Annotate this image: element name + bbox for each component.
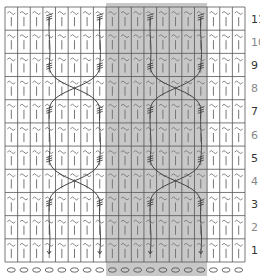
purl-tilde-icon (209, 174, 217, 177)
cast-on-oval-icon (7, 268, 15, 272)
knitting-chart: 1110987654321 (0, 0, 260, 276)
stitch-cell (20, 81, 28, 96)
purl-tilde-icon (235, 35, 243, 38)
stitch-cell (235, 127, 243, 142)
stitch-cell (20, 243, 28, 258)
purl-tilde-icon (83, 127, 91, 130)
purl-tilde-icon (96, 81, 104, 84)
purl-tilde-icon (83, 243, 91, 246)
stitch-cell (7, 35, 15, 50)
purl-tilde-icon (20, 220, 28, 223)
stitch-cell (33, 220, 41, 235)
stitch-cell (70, 220, 78, 235)
purl-tilde-icon (83, 197, 91, 200)
stitch-cell (209, 127, 217, 142)
stitch-cell (70, 35, 78, 50)
purl-tilde-icon (96, 174, 104, 177)
purl-tilde-icon (209, 151, 217, 154)
row-label-9: 9 (251, 59, 258, 72)
stitch-cell (209, 174, 217, 189)
stitch-cell (83, 151, 91, 166)
stitch-cell (33, 174, 41, 189)
purl-tilde-icon (58, 151, 66, 154)
stitch-cell (209, 12, 217, 27)
purl-tilde-icon (70, 104, 78, 107)
stitch-cell (7, 81, 15, 96)
cast-on-oval-icon (209, 268, 217, 272)
purl-tilde-icon (222, 243, 230, 246)
purl-tilde-icon (222, 174, 230, 177)
purl-tilde-icon (209, 127, 217, 130)
stitch-cell (222, 58, 230, 73)
purl-tilde-icon (222, 151, 230, 154)
stitch-cell (20, 151, 28, 166)
row-label-7: 7 (251, 105, 258, 118)
cast-on-oval-icon (70, 268, 78, 272)
stitch-cell (209, 151, 217, 166)
purl-tilde-icon (58, 104, 66, 107)
purl-tilde-icon (70, 243, 78, 246)
stitch-cell (20, 35, 28, 50)
stitch-cell (222, 220, 230, 235)
stitch-cell (33, 127, 41, 142)
purl-tilde-icon (7, 174, 15, 177)
stitch-cell (33, 81, 41, 96)
stitch-cell (33, 35, 41, 50)
cable-knot-icon (46, 63, 52, 69)
purl-tilde-icon (33, 104, 41, 107)
stitch-cell (7, 151, 15, 166)
purl-tilde-icon (70, 197, 78, 200)
purl-tilde-icon (20, 35, 28, 38)
purl-tilde-icon (70, 174, 78, 177)
cast-on-oval-icon (235, 268, 243, 272)
purl-tilde-icon (222, 104, 230, 107)
purl-tilde-icon (58, 127, 66, 130)
stitch-cell (70, 151, 78, 166)
stitch-cell (70, 58, 78, 73)
stitch-cell (235, 58, 243, 73)
stitch-cell (222, 151, 230, 166)
purl-tilde-icon (70, 151, 78, 154)
stitch-cell (83, 243, 91, 258)
stitch-cell (235, 104, 243, 119)
stitch-cell (222, 243, 230, 258)
purl-tilde-icon (20, 243, 28, 246)
stitch-cell (235, 243, 243, 258)
cast-on-oval-icon (33, 268, 41, 272)
row-label-10: 10 (251, 36, 260, 49)
purl-tilde-icon (33, 220, 41, 223)
purl-tilde-icon (33, 243, 41, 246)
cable-knot-icon (97, 63, 103, 69)
stitch-cell (83, 58, 91, 73)
purl-tilde-icon (235, 243, 243, 246)
purl-tilde-icon (20, 174, 28, 177)
cable-knot-icon (46, 107, 52, 113)
purl-tilde-icon (209, 104, 217, 107)
stitch-cell (83, 220, 91, 235)
stitch-cell (96, 174, 104, 189)
purl-tilde-icon (209, 12, 217, 15)
stitch-cell (235, 197, 243, 212)
stitch-cell (58, 151, 66, 166)
cable-knot-icon (46, 200, 52, 206)
cast-on-oval-icon (83, 268, 91, 272)
purl-tilde-icon (33, 197, 41, 200)
cast-on-oval-icon (222, 268, 230, 272)
stitch-cell (209, 81, 217, 96)
stitch-cell (20, 174, 28, 189)
purl-tilde-icon (45, 81, 53, 84)
stitch-cell (58, 12, 66, 27)
stitch-cell (209, 197, 217, 212)
stitch-cell (235, 151, 243, 166)
purl-tilde-icon (33, 127, 41, 130)
stitch-cell (20, 12, 28, 27)
purl-tilde-icon (209, 197, 217, 200)
stitch-cell (222, 127, 230, 142)
purl-tilde-icon (7, 127, 15, 130)
row-label-8: 8 (251, 82, 258, 95)
cable-knot-icon (97, 200, 103, 206)
stitch-cell (7, 104, 15, 119)
cable-knot-icon (97, 156, 103, 162)
purl-tilde-icon (70, 58, 78, 61)
purl-tilde-icon (70, 127, 78, 130)
